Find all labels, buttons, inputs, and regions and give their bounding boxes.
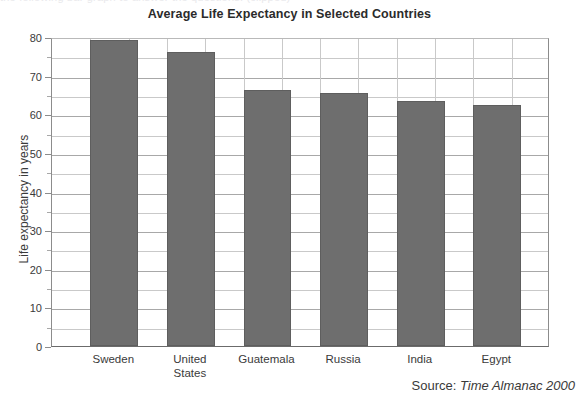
source-reference: Time Almanac 2000 xyxy=(460,378,575,393)
y-axis-tick-label: 70 xyxy=(30,71,42,83)
source-prefix: Source: xyxy=(412,378,457,393)
y-axis-tick-label: 40 xyxy=(30,187,42,199)
source-note: Source: Time Almanac 2000 xyxy=(412,378,575,393)
y-axis-tick-label: 60 xyxy=(30,109,42,121)
bar xyxy=(167,52,215,346)
clipped-header-text: the following bar graph to answer the qu… xyxy=(0,0,579,3)
bar-series xyxy=(52,39,548,346)
y-axis-tick-label: 30 xyxy=(30,225,42,237)
y-axis-tick-label: 10 xyxy=(30,302,42,314)
bar xyxy=(397,101,445,346)
x-axis-tick-label: Egypt xyxy=(451,352,541,366)
y-axis-tick-label: 20 xyxy=(30,264,42,276)
y-axis-tick-label: 50 xyxy=(30,148,42,160)
y-axis-tick-label: 80 xyxy=(30,32,42,44)
chart-title: Average Life Expectancy in Selected Coun… xyxy=(0,7,579,21)
y-axis-major-tick xyxy=(45,347,51,348)
y-axis-tick-label: 0 xyxy=(36,341,42,353)
bar xyxy=(473,105,521,346)
bar xyxy=(90,40,138,346)
y-axis: Life expectancy in years 010203040506070… xyxy=(0,0,51,400)
bar xyxy=(320,93,368,346)
bar xyxy=(244,90,292,346)
plot-area xyxy=(51,38,549,347)
